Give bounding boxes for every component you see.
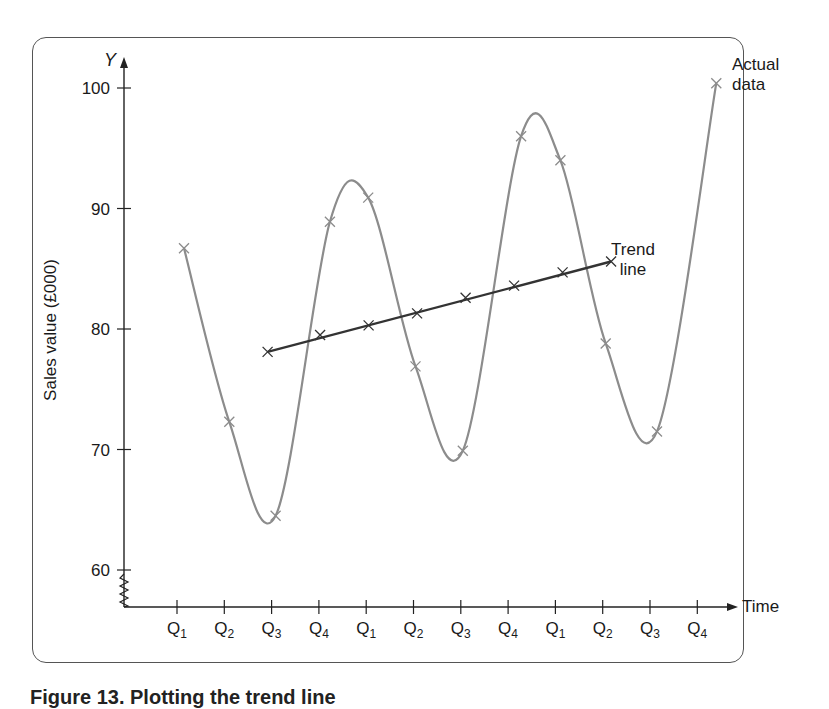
actual-data-marker-icon (411, 361, 421, 371)
y-axis-symbol: Y (104, 50, 118, 70)
x-tick-label: Q3 (451, 619, 471, 641)
actual-data-marker-icon (652, 426, 662, 436)
y-tick-label: 80 (91, 320, 110, 339)
x-axis-title: Time (742, 597, 779, 616)
y-tick-label: 70 (91, 441, 110, 460)
annotation-trend-line2: line (620, 260, 646, 279)
actual-data-marker-icon (458, 446, 468, 456)
x-tick-label: Q2 (404, 619, 424, 641)
x-tick-label: Q4 (498, 619, 518, 641)
x-tick-label: Q4 (687, 619, 707, 641)
actual-data-marker-icon (555, 155, 565, 165)
annotation-actual-line1: Actual (732, 55, 779, 74)
actual-data-marker-icon (271, 511, 281, 521)
actual-data-marker-icon (224, 417, 234, 427)
x-tick-label: Q2 (593, 619, 613, 641)
x-tick-label: Q2 (214, 619, 234, 641)
series-layer (179, 78, 721, 523)
actual-data-marker-icon (363, 193, 373, 203)
x-tick-label: Q3 (640, 619, 660, 641)
x-tick-label: Q1 (545, 619, 565, 641)
x-tick-label: Q1 (167, 619, 187, 641)
y-axis-title: Sales value (£000) (41, 259, 60, 401)
figure-caption: Figure 13. Plotting the trend line (30, 686, 336, 709)
actual-data-marker-icon (601, 338, 611, 348)
x-tick-label: Q4 (309, 619, 329, 641)
x-tick-label: Q3 (262, 619, 282, 641)
annotation-trend-line1: Trend (611, 240, 655, 259)
y-axis-arrow-icon (120, 57, 128, 68)
y-tick-label: 100 (82, 79, 110, 98)
x-tick-label: Q1 (356, 619, 376, 641)
x-axis-arrow-icon (727, 603, 738, 611)
y-tick-label: 90 (91, 200, 110, 219)
annotation-actual-line2: data (732, 75, 766, 94)
y-tick-label: 60 (91, 561, 110, 580)
